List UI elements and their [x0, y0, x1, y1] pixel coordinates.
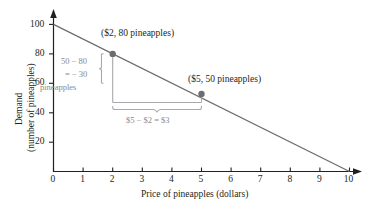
rise-annotation-line2: = − 30: [65, 70, 87, 79]
x-tick-label-3: 3: [139, 175, 144, 185]
x-tick-label-2: 2: [110, 175, 115, 185]
y-axis-title-line2: (number of pineapples): [26, 63, 36, 152]
demand-curve-chart: 100 80 60 40 20 0 1 2 3 4 5 6 7 8 9 10 P…: [0, 0, 370, 206]
data-point-marker-2: [198, 91, 204, 97]
x-tick-label-8: 8: [287, 175, 292, 185]
x-tick-label-1: 1: [80, 175, 85, 185]
y-axis-title-line1: Demand: [14, 93, 24, 125]
chart-canvas: [0, 0, 370, 206]
x-tick-label-4: 4: [169, 175, 174, 185]
x-tick-label-0: 0: [51, 175, 56, 185]
rise-annotation-line1: 50 − 80: [61, 57, 87, 66]
x-tick-label-7: 7: [258, 175, 263, 185]
x-tick-label-9: 9: [317, 175, 322, 185]
x-axis: [54, 168, 363, 175]
rise-annotation-line3: pineapples: [40, 83, 76, 92]
data-point-label-2: ($5, 50 pineapples): [188, 75, 261, 85]
x-tick-label-10: 10: [344, 175, 354, 185]
run-brace: [113, 106, 202, 112]
rise-brace: [99, 54, 103, 83]
y-tick-label-40: 40: [35, 108, 45, 118]
data-point-marker-1: [110, 51, 116, 57]
data-point-label-1: ($2, 80 pineapples): [101, 29, 174, 39]
x-tick-label-5: 5: [199, 175, 204, 185]
y-axis-title: Demand (number of pineapples): [0, 0, 36, 160]
x-axis-title: Price of pineapples (dollars): [141, 190, 248, 200]
y-tick-label-20: 20: [35, 137, 45, 147]
run-annotation-text: $5 − $2 = $3: [126, 116, 170, 125]
x-tick-label-6: 6: [228, 175, 233, 185]
y-tick-label-80: 80: [35, 49, 45, 59]
